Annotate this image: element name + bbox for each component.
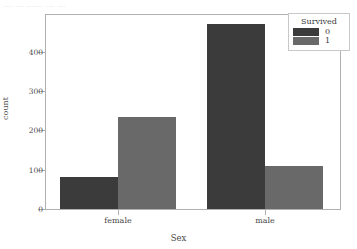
legend-title: Survived — [293, 17, 345, 26]
bar-male-1 — [265, 166, 323, 209]
chart-container: — — —— — — 0 100 200 300 400 female male… — [0, 0, 357, 249]
x-tick-label-male: male — [255, 216, 275, 225]
x-tick-label-female: female — [104, 216, 131, 225]
x-axis-title: Sex — [0, 233, 357, 243]
y-tick-label-300: 300 — [29, 87, 43, 96]
bar-male-0 — [207, 24, 265, 209]
top-artifact-text: — — —— — — — [4, 1, 66, 10]
legend-swatch-icon-1 — [293, 37, 319, 45]
y-axis-title: count — [1, 97, 10, 120]
x-tick-male — [265, 210, 266, 215]
legend-label-1: 1 — [325, 37, 330, 45]
y-tick-label-400: 400 — [29, 48, 43, 57]
y-tick-label-100: 100 — [29, 166, 43, 175]
bar-female-0 — [60, 177, 118, 209]
legend-swatch-icon-0 — [293, 28, 319, 36]
y-tick-label-200: 200 — [29, 126, 43, 135]
y-tick-label-0: 0 — [38, 205, 43, 214]
legend-label-0: 0 — [325, 28, 330, 36]
legend-item-0[interactable]: 0 — [293, 28, 345, 36]
legend-item-1[interactable]: 1 — [293, 37, 345, 45]
legend: Survived 0 1 — [288, 13, 350, 51]
x-tick-female — [118, 210, 119, 215]
bar-female-1 — [118, 117, 176, 209]
